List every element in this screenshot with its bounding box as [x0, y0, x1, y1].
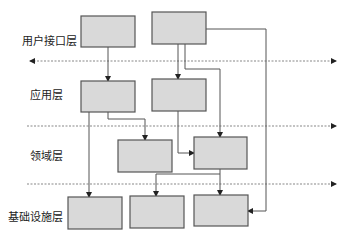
layer-label-domain: 领域层 [30, 147, 63, 163]
component-box-app-1 [81, 81, 135, 112]
component-box-dom-2 [194, 137, 247, 169]
layer-label-infrastructure: 基础设施层 [8, 208, 63, 224]
component-box-infra-3 [194, 195, 248, 226]
component-box-ui-2 [152, 12, 206, 44]
component-boxes [68, 12, 248, 229]
connector-ui-2-to-infra-3 [206, 29, 266, 211]
connector-app-2-to-dom-2 [178, 111, 194, 153]
layer-label-user-interface: 用户接口层 [22, 32, 77, 48]
component-box-dom-1 [118, 140, 172, 172]
connector-dom-2-to-infra-2 [156, 174, 220, 196]
component-box-app-2 [152, 79, 206, 111]
component-box-infra-1 [68, 197, 122, 229]
component-box-ui-1 [81, 16, 135, 47]
component-box-infra-2 [130, 196, 184, 228]
layer-label-application: 应用层 [30, 86, 63, 102]
